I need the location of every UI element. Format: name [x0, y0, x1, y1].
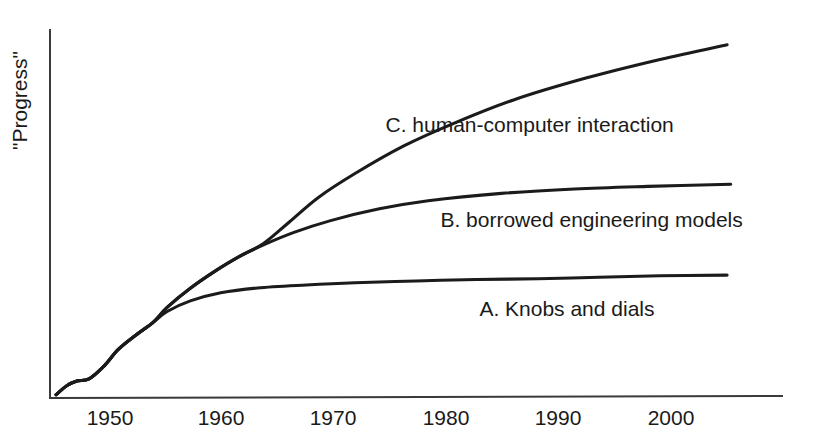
series-label-c: C. human-computer interaction	[386, 113, 674, 137]
series-label-a: A. Knobs and dials	[479, 297, 654, 321]
y-axis-label: "Progress"	[8, 0, 32, 150]
x-tick-label-1960: 1960	[198, 406, 245, 430]
x-tick-label-1950: 1950	[87, 406, 134, 430]
x-axis-line	[50, 396, 782, 398]
series-label-b: B. borrowed engineering models	[440, 208, 742, 232]
x-tick-label-1990: 1990	[535, 406, 582, 430]
x-tick-label-1970: 1970	[310, 406, 357, 430]
x-tick-label-1980: 1980	[423, 406, 470, 430]
y-axis-label-text: "Progress"	[8, 0, 32, 150]
series-line-a	[56, 275, 727, 395]
x-tick-label-2000: 2000	[648, 406, 695, 430]
chart-figure: "Progress" 1950 1960 1970 1980 1990 2000…	[0, 0, 818, 448]
